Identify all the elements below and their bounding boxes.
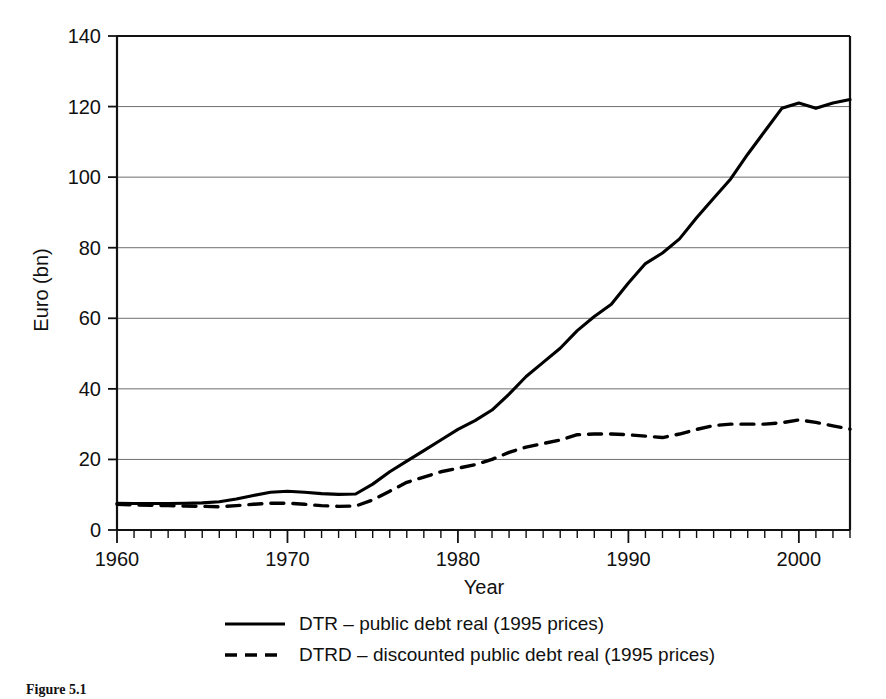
y-axis-title: Euro (bn)	[30, 248, 52, 331]
y-tick-label-40: 40	[79, 378, 101, 400]
figure-caption: Figure 5.1	[26, 682, 86, 697]
y-tick-label-100: 100	[68, 166, 101, 188]
x-tick-label-1960: 1960	[95, 548, 140, 570]
x-axis-tick-labels: 19601970198019902000	[95, 548, 821, 570]
x-tick-label-1990: 1990	[606, 548, 651, 570]
y-tick-label-20: 20	[79, 448, 101, 470]
y-axis-ticks	[108, 36, 117, 530]
plot-axes	[117, 36, 850, 530]
y-axis-tick-labels: 020406080100120140	[68, 25, 101, 541]
y-tick-label-140: 140	[68, 25, 101, 47]
legend-label-0: DTR – public debt real (1995 prices)	[299, 613, 604, 634]
plot-gridlines	[117, 107, 850, 460]
y-tick-label-60: 60	[79, 307, 101, 329]
y-tick-label-80: 80	[79, 237, 101, 259]
line-chart: 020406080100120140 19601970198019902000 …	[0, 0, 886, 699]
series-line-dtrd	[117, 420, 850, 507]
series-line-dtr	[117, 100, 850, 504]
y-tick-label-0: 0	[90, 519, 101, 541]
y-tick-label-120: 120	[68, 96, 101, 118]
x-tick-label-2000: 2000	[777, 548, 822, 570]
x-axis-title: Year	[464, 576, 505, 598]
chart-legend: DTR – public debt real (1995 prices)DTRD…	[225, 613, 715, 665]
x-axis-ticks	[117, 530, 850, 543]
data-series-group	[117, 100, 850, 507]
figure-container: 020406080100120140 19601970198019902000 …	[0, 0, 886, 699]
legend-label-1: DTRD – discounted public debt real (1995…	[299, 644, 715, 665]
x-tick-label-1970: 1970	[265, 548, 310, 570]
x-tick-label-1980: 1980	[436, 548, 481, 570]
